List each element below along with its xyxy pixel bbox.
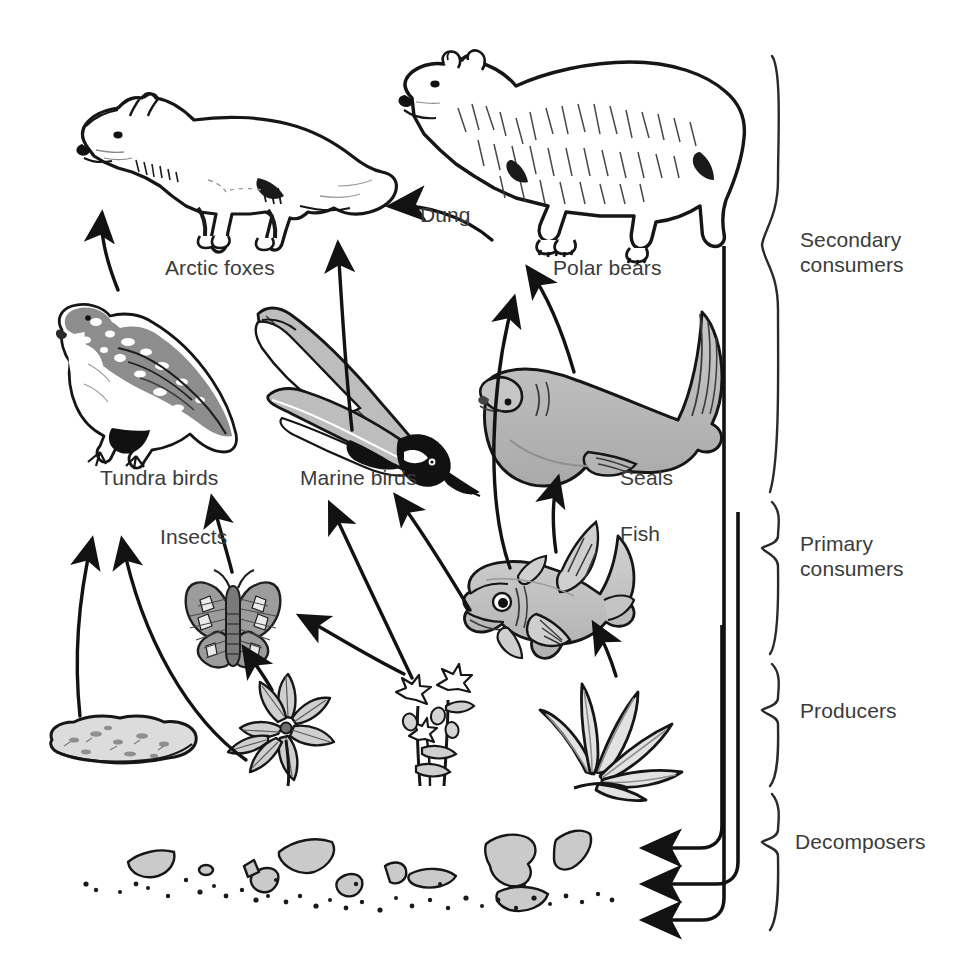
polar-bear-illustration — [398, 50, 744, 265]
fish-illustration — [464, 522, 634, 658]
tier-label-primary-consumers: Primary consumers — [800, 532, 904, 582]
label-polar-bears: Polar bears — [553, 256, 662, 281]
arrow-flowering-plant-to-marine-birds — [330, 504, 412, 678]
flowering-plant-illustration — [396, 664, 474, 786]
label-insects: Insects — [160, 525, 227, 550]
cushion-plant-illustration — [228, 674, 334, 786]
brace-primary-consumers — [762, 502, 779, 654]
label-seals: Seals — [620, 466, 673, 491]
brace-decomposers — [762, 794, 779, 930]
arrow-fish-to-marine-birds — [396, 496, 470, 610]
seal-illustration — [478, 312, 722, 486]
tundra-bird-illustration — [56, 304, 237, 469]
lichen-illustration — [51, 716, 197, 763]
arrow-tundra-birds-to-arctic-foxes — [102, 214, 118, 290]
tier-label-decomposers: Decomposers — [795, 830, 926, 855]
food-web-diagram: Arctic foxes Polar bears Tundra birds Ma… — [0, 0, 956, 969]
label-dung: Dung — [420, 203, 471, 228]
insect-illustration — [186, 570, 281, 668]
arrow-seals-to-polar-bears — [528, 268, 574, 372]
tier-label-producers: Producers — [800, 699, 897, 724]
tier-braces — [762, 56, 779, 930]
arctic-fox-illustration — [76, 94, 396, 253]
seaweed-illustration — [540, 684, 682, 801]
decomposer-debris-illustration — [83, 831, 614, 913]
label-tundra-birds: Tundra birds — [100, 466, 218, 491]
tier-label-secondary-consumers: Secondary consumers — [800, 228, 904, 278]
label-marine-birds: Marine birds — [300, 466, 417, 491]
brace-secondary-consumers — [762, 56, 779, 492]
decomposer-return-lines-2 — [646, 243, 740, 919]
arrow-lichen-to-tundra-birds — [77, 540, 92, 716]
brace-producers — [762, 664, 779, 786]
arrow-fish-to-seals — [553, 478, 558, 552]
label-arctic-foxes: Arctic foxes — [165, 256, 275, 281]
label-fish: Fish — [620, 522, 660, 547]
arrow-seaweed-to-fish — [594, 624, 616, 676]
